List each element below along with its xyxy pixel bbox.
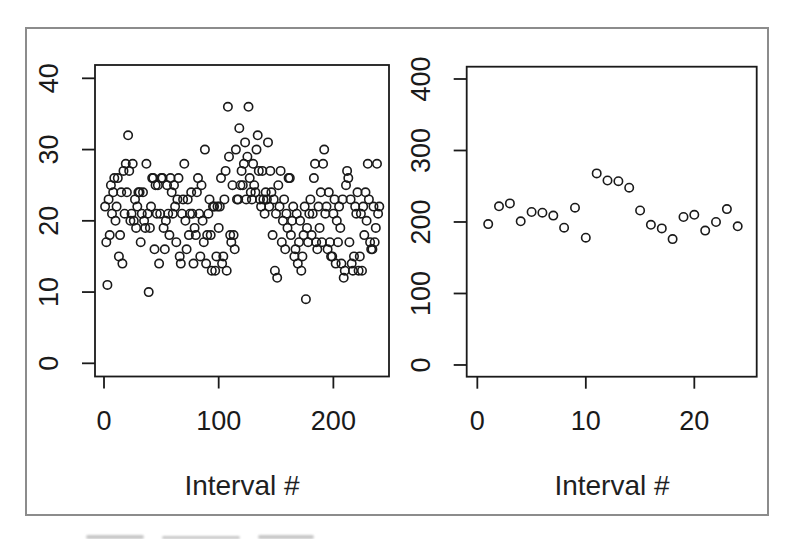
data-point [360, 231, 368, 239]
data-point [196, 252, 204, 260]
data-point [506, 199, 514, 207]
plot-box [467, 67, 757, 377]
data-point [527, 208, 535, 216]
x-tick-label: 10 [571, 406, 601, 436]
x-tick-label: 20 [679, 406, 709, 436]
data-point [734, 222, 742, 230]
data-points [101, 103, 384, 304]
data-point [198, 217, 206, 225]
data-point [668, 235, 676, 243]
data-point [571, 204, 579, 212]
right-plot: 010200100200300400 [406, 56, 757, 435]
data-point [287, 231, 295, 239]
data-point [235, 124, 243, 132]
data-point [302, 295, 310, 303]
data-point [345, 238, 353, 246]
data-point [220, 195, 228, 203]
data-point [165, 231, 173, 239]
data-point [254, 131, 262, 139]
left-plot-x-axis-title: Interval # [95, 470, 389, 502]
data-point [636, 206, 644, 214]
data-point [103, 281, 111, 289]
y-tick-label: 20 [34, 206, 64, 236]
data-point [123, 188, 131, 196]
data-point [280, 195, 288, 203]
screenshot-stage: 0100200010203040010200100200300400 Inter… [0, 0, 795, 539]
data-point [268, 231, 276, 239]
data-point [658, 224, 666, 232]
x-tick-label: 0 [470, 406, 485, 436]
data-point [225, 153, 233, 161]
data-point [614, 177, 622, 185]
data-point [231, 245, 239, 253]
data-point [538, 209, 546, 217]
data-point [116, 231, 124, 239]
data-point [137, 238, 145, 246]
data-point [172, 238, 180, 246]
data-point [679, 213, 687, 221]
data-point [320, 145, 328, 153]
y-tick-label: 10 [34, 277, 64, 307]
data-point [625, 184, 633, 192]
data-point [315, 224, 323, 232]
data-point [297, 267, 305, 275]
cut-off-caption-artifact [258, 535, 314, 539]
data-point [336, 224, 344, 232]
y-tick-label: 100 [406, 271, 436, 316]
y-tick-label: 0 [406, 357, 436, 372]
y-tick-label: 30 [34, 135, 64, 165]
data-point [712, 218, 720, 226]
data-point [276, 167, 284, 175]
data-point [118, 259, 126, 267]
data-point [298, 252, 306, 260]
data-point [517, 217, 525, 225]
data-point [310, 174, 318, 182]
data-point [317, 188, 325, 196]
left-plot: 0100200010203040 [34, 63, 389, 435]
data-point [223, 267, 231, 275]
data-point [150, 245, 158, 253]
data-point [215, 224, 223, 232]
data-point [142, 160, 150, 168]
y-tick-label: 200 [406, 199, 436, 244]
data-point [224, 103, 232, 111]
y-tick-label: 300 [406, 128, 436, 173]
data-point [189, 259, 197, 267]
data-point [495, 202, 503, 210]
data-point [314, 202, 322, 210]
data-point [145, 288, 153, 296]
data-point [180, 160, 188, 168]
data-point [197, 181, 205, 189]
data-point [362, 217, 370, 225]
data-point [241, 138, 249, 146]
data-point [690, 211, 698, 219]
data-point [647, 221, 655, 229]
data-point [373, 160, 381, 168]
data-point [228, 181, 236, 189]
cut-off-caption-artifact [86, 535, 144, 539]
right-plot-x-axis-title: Interval # [467, 470, 757, 502]
data-points [484, 169, 742, 243]
data-point [356, 252, 364, 260]
data-point [106, 231, 114, 239]
data-point [306, 195, 314, 203]
chart-canvas: 0100200010203040010200100200300400 [0, 0, 795, 539]
y-tick-label: 400 [406, 56, 436, 101]
data-point [311, 160, 319, 168]
data-point [221, 167, 229, 175]
data-point [244, 103, 252, 111]
data-point [334, 238, 342, 246]
x-tick-label: 200 [311, 406, 356, 436]
data-point [701, 226, 709, 234]
data-point [111, 217, 119, 225]
data-point [372, 224, 380, 232]
data-point [147, 202, 155, 210]
data-point [549, 211, 557, 219]
y-tick-label: 40 [34, 63, 64, 93]
x-tick-label: 100 [196, 406, 241, 436]
data-point [560, 224, 568, 232]
data-point [603, 176, 611, 184]
data-point [201, 145, 209, 153]
data-point [232, 145, 240, 153]
data-point [112, 202, 120, 210]
